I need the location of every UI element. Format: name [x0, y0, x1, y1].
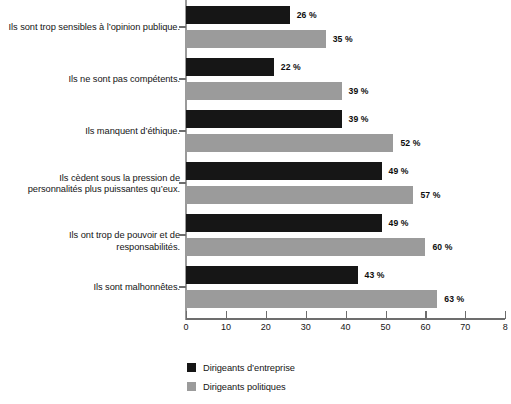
x-axis-tick — [186, 311, 187, 319]
x-axis-tick — [226, 311, 227, 319]
bar-value-label: 35 % — [333, 34, 353, 44]
bar-value-label: 63 % — [444, 294, 464, 304]
category-group: Ils sont malhonnêtes.43 %63 % — [0, 266, 511, 318]
legend-item-series-b: Dirigeants politiques — [187, 377, 295, 396]
legend-item-series-a: Dirigeants d’entreprise — [187, 358, 295, 377]
bar-value-label: 39 % — [349, 86, 369, 96]
category-label: Ils ont trop de pouvoir et de responsabi… — [4, 230, 180, 253]
chart-legend: Dirigeants d’entreprise Dirigeants polit… — [187, 358, 295, 396]
bar-series-a — [186, 58, 274, 76]
bar-value-label: 57 % — [420, 190, 440, 200]
bar-series-a — [186, 214, 382, 232]
bar-series-b — [186, 186, 413, 204]
category-label: Ils ne sont pas compétents. — [4, 74, 180, 85]
x-axis-tick-label: 20 — [261, 322, 271, 332]
bar-value-label: 52 % — [400, 138, 420, 148]
bar-series-a — [186, 266, 358, 284]
legend-label-series-a: Dirigeants d’entreprise — [203, 363, 295, 373]
category-group: Ils cèdent sous la pression depersonnali… — [0, 162, 511, 214]
x-axis-tick-label: 50 — [380, 322, 390, 332]
x-axis-tick — [465, 311, 466, 319]
category-group: Ils ont trop de pouvoir et de responsabi… — [0, 214, 511, 266]
bar-series-a — [186, 162, 382, 180]
bar-chart: Ils sont trop sensibles à l’opinion publ… — [0, 0, 511, 404]
x-axis-tick-label: 10 — [221, 322, 231, 332]
bar-value-label: 39 % — [349, 114, 369, 124]
category-tick — [179, 234, 186, 236]
x-axis-tick — [306, 311, 307, 319]
bar-series-a — [186, 6, 290, 24]
x-axis-tick-label: 8 — [503, 322, 508, 332]
bar-series-b — [186, 290, 437, 308]
x-axis-tick — [266, 311, 267, 319]
category-tick — [179, 286, 186, 288]
x-axis-tick-label: 0 — [183, 322, 188, 332]
category-label: Ils manquent d’éthique. — [4, 126, 180, 137]
category-tick — [179, 78, 186, 80]
x-axis-tick-label: 30 — [301, 322, 311, 332]
bar-value-label: 26 % — [297, 10, 317, 20]
category-label: Ils sont malhonnêtes. — [4, 282, 180, 293]
x-axis-tick — [386, 311, 387, 319]
x-axis-tick — [505, 311, 506, 319]
bar-series-b — [186, 134, 393, 152]
bar-value-label: 60 % — [432, 242, 452, 252]
x-axis-tick — [346, 311, 347, 319]
category-group: Ils manquent d’éthique.39 %52 % — [0, 110, 511, 162]
x-axis-tick — [425, 311, 426, 319]
category-tick — [179, 130, 186, 132]
x-axis-tick-label: 70 — [460, 322, 470, 332]
bar-series-a — [186, 110, 342, 128]
bar-value-label: 49 % — [389, 218, 409, 228]
bar-series-b — [186, 238, 425, 256]
bar-value-label: 43 % — [365, 270, 385, 280]
legend-swatch-icon-series-a — [187, 363, 196, 372]
category-label: Ils sont trop sensibles à l’opinion publ… — [4, 22, 180, 33]
category-tick — [179, 182, 186, 184]
x-axis-tick-label: 40 — [341, 322, 351, 332]
bar-value-label: 49 % — [389, 166, 409, 176]
category-tick — [179, 26, 186, 28]
bar-value-label: 22 % — [281, 62, 301, 72]
category-group: Ils sont trop sensibles à l’opinion publ… — [0, 6, 511, 58]
x-axis-tick-label: 60 — [420, 322, 430, 332]
legend-swatch-icon-series-b — [187, 382, 196, 391]
bar-series-b — [186, 82, 342, 100]
category-group: Ils ne sont pas compétents.22 %39 % — [0, 58, 511, 110]
legend-label-series-b: Dirigeants politiques — [203, 382, 286, 392]
category-label: Ils cèdent sous la pression depersonnali… — [4, 173, 180, 196]
bar-series-b — [186, 30, 326, 48]
